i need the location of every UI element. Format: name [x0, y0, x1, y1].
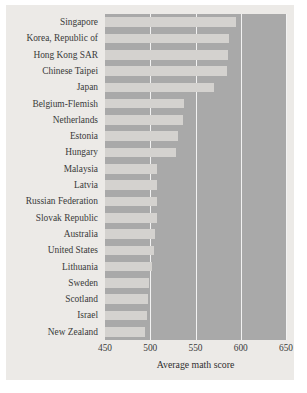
plot-area: [105, 14, 286, 340]
y-axis-label: Lithuania: [62, 259, 98, 275]
bar: [105, 246, 154, 256]
x-axis-tick-500: 500: [143, 343, 157, 353]
y-axis-label: Japan: [77, 79, 98, 95]
y-axis-label: Chinese Taipei: [42, 63, 98, 79]
y-axis-label: Israel: [77, 307, 98, 323]
y-axis-label: Estonia: [70, 128, 98, 144]
bar: [105, 278, 149, 288]
bar-row: [105, 112, 286, 128]
y-axis-label: Korea, Republic of: [26, 30, 98, 46]
x-axis-tick-600: 600: [234, 343, 248, 353]
bar-row: [105, 177, 286, 193]
bar-row: [105, 161, 286, 177]
bar: [105, 66, 227, 76]
math-score-bar-chart: SingaporeKorea, Republic ofHong Kong SAR…: [0, 0, 307, 393]
bar: [105, 294, 148, 304]
bar: [105, 213, 157, 223]
bar: [105, 34, 229, 44]
bar: [105, 99, 184, 109]
bar-row: [105, 291, 286, 307]
bar: [105, 164, 157, 174]
x-axis-tick-650: 650: [279, 343, 293, 353]
bar: [105, 148, 176, 158]
bar: [105, 197, 157, 207]
y-axis-label: New Zealand: [48, 324, 98, 340]
bar-row: [105, 63, 286, 79]
y-axis-label: Hong Kong SAR: [33, 47, 98, 63]
bar: [105, 262, 152, 272]
bar-row: [105, 128, 286, 144]
y-axis-label: Russian Federation: [26, 193, 98, 209]
x-axis-title: Average math score: [105, 359, 286, 370]
bar: [105, 115, 183, 125]
bar-row: [105, 242, 286, 258]
y-axis-label: Belgium-Flemish: [32, 96, 98, 112]
bar-row: [105, 96, 286, 112]
y-axis-label: United States: [48, 242, 98, 258]
bar: [105, 131, 178, 141]
bar: [105, 229, 155, 239]
bar-row: [105, 193, 286, 209]
bar: [105, 311, 147, 321]
bar-row: [105, 324, 286, 340]
bar-row: [105, 259, 286, 275]
y-axis-label: Netherlands: [53, 112, 98, 128]
x-axis-tick-550: 550: [188, 343, 202, 353]
y-axis-label: Scotland: [65, 291, 98, 307]
bar-row: [105, 307, 286, 323]
bar-row: [105, 79, 286, 95]
gridline-650: [286, 14, 287, 340]
bar: [105, 180, 157, 190]
bar-row: [105, 275, 286, 291]
bar: [105, 327, 145, 337]
bar: [105, 50, 228, 60]
bar-row: [105, 144, 286, 160]
y-axis-label: Sweden: [68, 275, 98, 291]
y-axis-label: Malaysia: [64, 161, 98, 177]
bar-row: [105, 30, 286, 46]
bar-row: [105, 226, 286, 242]
x-axis-tick-450: 450: [98, 343, 112, 353]
bar-row: [105, 14, 286, 30]
y-axis-label: Hungary: [65, 144, 98, 160]
y-axis-label: Slovak Republic: [36, 210, 98, 226]
x-axis-tick-labels: 450500550600650: [0, 343, 307, 359]
bar: [105, 83, 214, 93]
y-axis-label: Latvia: [74, 177, 98, 193]
bar-row: [105, 210, 286, 226]
bar: [105, 17, 236, 27]
y-axis-label: Australia: [64, 226, 98, 242]
bar-row: [105, 47, 286, 63]
y-axis-category-labels: SingaporeKorea, Republic ofHong Kong SAR…: [0, 14, 101, 340]
y-axis-label: Singapore: [60, 14, 98, 30]
